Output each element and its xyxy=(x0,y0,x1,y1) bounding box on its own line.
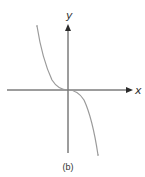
figure-caption: (b) xyxy=(63,162,74,172)
x-axis-label: x xyxy=(134,84,142,97)
curve-endpoint-top xyxy=(36,25,38,27)
x-axis-arrow-icon xyxy=(126,87,133,93)
curve-endpoint-bottom xyxy=(97,154,99,156)
y-axis-label: y xyxy=(65,9,73,22)
y-axis-arrow-icon xyxy=(65,24,71,31)
y-axis xyxy=(65,24,71,153)
cubic-function-graph: y x (b) xyxy=(0,0,145,177)
